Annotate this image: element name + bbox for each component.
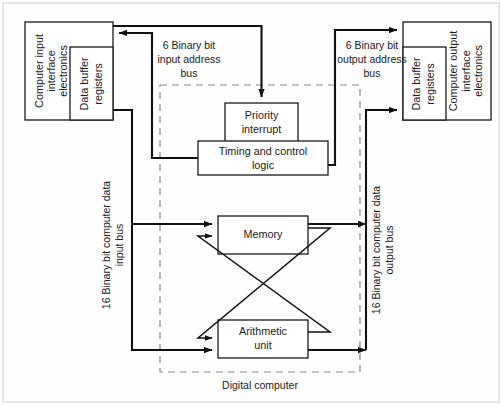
svg-text:output bus: output bus bbox=[383, 225, 395, 274]
svg-text:input bus: input bus bbox=[113, 224, 125, 267]
label-arithmetic-unit-line2: unit bbox=[254, 339, 271, 351]
svg-text:Computer output: Computer output bbox=[447, 31, 459, 111]
svg-text:registers: registers bbox=[424, 63, 436, 105]
label-memory: Memory bbox=[244, 228, 284, 240]
figure-caption: Digital computer bbox=[222, 379, 298, 391]
label-input-address-bus: 6 Binary bit input address bus bbox=[157, 39, 220, 79]
label-output-address-bus: 6 Binary bit output address bus bbox=[337, 39, 406, 79]
svg-text:6 Binary bit: 6 Binary bit bbox=[163, 39, 216, 51]
wire-input-address-bus bbox=[119, 33, 198, 158]
svg-text:registers: registers bbox=[92, 63, 104, 105]
block-diagram-figure: Computer input interface electronics Dat… bbox=[0, 0, 502, 405]
label-data-output-bus: 16 Binary bit computer data output bus bbox=[370, 186, 395, 315]
svg-text:Data buffer: Data buffer bbox=[410, 57, 422, 111]
svg-text:electronics: electronics bbox=[57, 45, 69, 97]
svg-text:bus: bus bbox=[364, 67, 381, 79]
svg-text:Computer input: Computer input bbox=[33, 34, 45, 108]
svg-text:16 Binary bit computer data: 16 Binary bit computer data bbox=[100, 181, 112, 310]
svg-text:output address: output address bbox=[337, 53, 406, 65]
label-timing-control-line1: Timing and control bbox=[219, 145, 307, 157]
label-priority-interrupt-line2: interrupt bbox=[242, 123, 282, 135]
svg-text:16 Binary bit computer data: 16 Binary bit computer data bbox=[370, 186, 382, 315]
label-timing-control-line2: logic bbox=[252, 159, 275, 171]
wire-data-input-bus-trunk-to-arithmetic bbox=[113, 110, 212, 350]
svg-text:Data buffer: Data buffer bbox=[78, 57, 90, 111]
label-arithmetic-unit-line1: Arithmetic bbox=[239, 325, 288, 337]
svg-text:bus: bus bbox=[181, 67, 198, 79]
label-priority-interrupt-line1: Priority bbox=[245, 109, 279, 121]
svg-text:6 Binary bit: 6 Binary bit bbox=[346, 39, 399, 51]
svg-text:interface: interface bbox=[45, 50, 57, 91]
svg-text:interface: interface bbox=[460, 50, 472, 91]
label-data-input-bus: 16 Binary bit computer data input bus bbox=[100, 181, 125, 310]
svg-text:input address: input address bbox=[157, 53, 220, 65]
svg-text:electronics: electronics bbox=[472, 45, 484, 97]
